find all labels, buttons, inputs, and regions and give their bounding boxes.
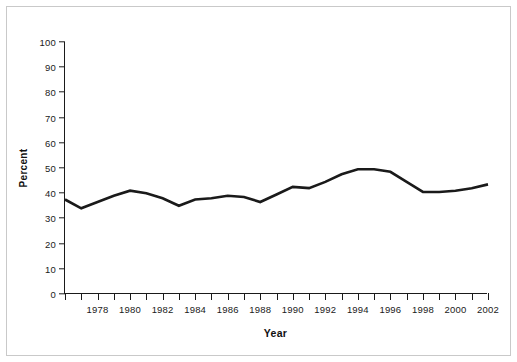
x-axis-tick — [472, 293, 473, 300]
line-series — [65, 42, 488, 294]
y-axis-tick-label: 40 — [45, 188, 56, 199]
x-axis-tick — [325, 293, 326, 300]
x-axis-tick — [293, 293, 294, 300]
y-axis-tick-label: 100 — [40, 37, 56, 48]
x-axis-tick — [407, 293, 408, 300]
y-axis-tick — [59, 243, 65, 244]
y-axis-tick — [59, 117, 65, 118]
y-axis-tick — [59, 268, 65, 269]
x-axis-tick — [488, 293, 489, 300]
y-axis-tick-label: 80 — [45, 87, 56, 98]
x-axis-tick — [130, 293, 131, 300]
x-axis-tick — [277, 293, 278, 300]
x-axis-tick-label: 1988 — [249, 304, 271, 315]
x-axis-tick — [455, 293, 456, 300]
plot-area: 0102030405060708090100197819801982198419… — [64, 42, 487, 294]
y-axis-tick-label: 20 — [45, 238, 56, 249]
x-axis-tick — [390, 293, 391, 300]
x-axis-tick — [179, 293, 180, 300]
x-axis-tick — [244, 293, 245, 300]
x-axis-tick — [260, 293, 261, 300]
x-axis-tick — [342, 293, 343, 300]
y-axis-tick — [59, 66, 65, 67]
y-axis-tick — [59, 92, 65, 93]
x-axis-tick-label: 1980 — [119, 304, 141, 315]
y-axis-tick-label: 70 — [45, 112, 56, 123]
y-axis-tick-label: 50 — [45, 163, 56, 174]
x-axis-tick-label: 1982 — [152, 304, 174, 315]
x-axis-tick-label: 1994 — [347, 304, 369, 315]
y-axis-tick-label: 60 — [45, 137, 56, 148]
x-axis-tick-label: 1990 — [282, 304, 304, 315]
chart-figure: 0102030405060708090100197819801982198419… — [0, 0, 517, 362]
x-axis-tick-label: 1996 — [379, 304, 401, 315]
x-axis-tick — [228, 293, 229, 300]
y-axis-tick — [59, 218, 65, 219]
x-axis-tick-label: 2002 — [477, 304, 499, 315]
x-axis-tick-label: 1978 — [87, 304, 109, 315]
y-axis-tick — [59, 192, 65, 193]
x-axis-tick-label: 1984 — [184, 304, 206, 315]
x-axis-tick — [114, 293, 115, 300]
x-axis-tick — [439, 293, 440, 300]
x-axis-tick — [65, 293, 66, 300]
x-axis-tick — [358, 293, 359, 300]
x-axis-tick-label: 1998 — [412, 304, 434, 315]
y-axis-tick-label: 30 — [45, 213, 56, 224]
y-axis-tick-label: 0 — [51, 289, 56, 300]
x-axis-title: Year — [64, 327, 487, 339]
x-axis-tick — [81, 293, 82, 300]
x-axis-tick — [163, 293, 164, 300]
x-axis-tick — [211, 293, 212, 300]
x-axis-tick — [195, 293, 196, 300]
x-axis-tick-label: 1986 — [217, 304, 239, 315]
y-axis-tick — [59, 142, 65, 143]
x-axis-tick — [98, 293, 99, 300]
y-axis-tick — [59, 167, 65, 168]
y-axis-tick — [59, 41, 65, 42]
x-axis-tick — [423, 293, 424, 300]
series-polyline — [65, 169, 488, 208]
x-axis-tick — [309, 293, 310, 300]
y-axis-title: Percent — [18, 149, 29, 188]
y-axis-tick-label: 10 — [45, 263, 56, 274]
x-axis-tick — [146, 293, 147, 300]
y-axis-tick-label: 90 — [45, 62, 56, 73]
x-axis-tick — [374, 293, 375, 300]
x-axis-tick-label: 2000 — [444, 304, 466, 315]
x-axis-tick-label: 1992 — [314, 304, 336, 315]
